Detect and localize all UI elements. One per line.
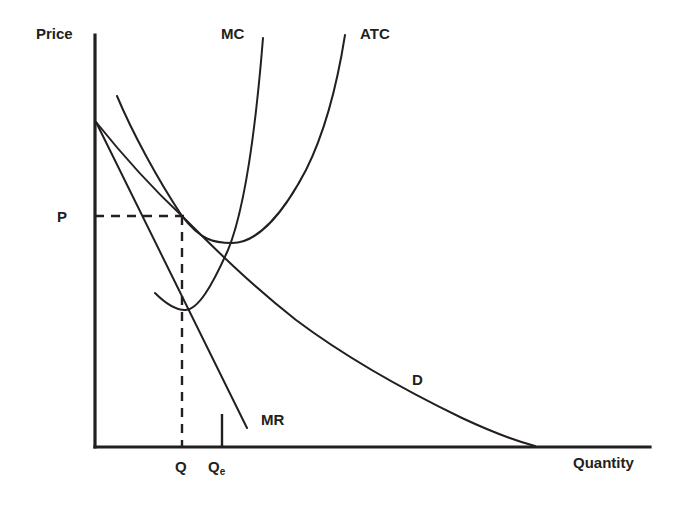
mr-curve-label: MR — [261, 412, 284, 427]
efficient-quantity-point-label: Qe — [208, 459, 225, 474]
marginal-revenue-curve — [96, 122, 247, 428]
atc-curve — [117, 35, 345, 243]
chart-canvas — [0, 0, 682, 507]
x-axis-label: Quantity — [573, 455, 634, 470]
demand-curve — [96, 122, 535, 446]
quantity-point-label: Q — [175, 459, 187, 474]
economics-diagram-figure: Price Quantity MC ATC D MR P Q Qe — [0, 0, 682, 507]
qe-base: Q — [208, 458, 220, 475]
y-axis-label: Price — [36, 26, 73, 41]
demand-curve-label: D — [412, 372, 423, 387]
qe-subscript: e — [220, 466, 226, 477]
atc-curve-label: ATC — [360, 26, 390, 41]
mc-curve — [155, 38, 263, 310]
price-point-label: P — [57, 209, 67, 224]
mc-curve-label: MC — [221, 26, 244, 41]
